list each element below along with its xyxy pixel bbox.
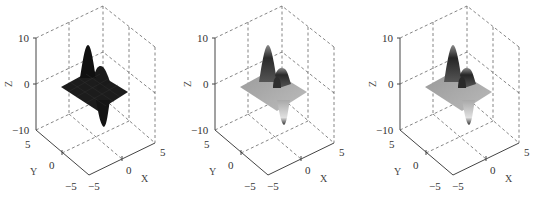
surface-plot-a: 10 0 −10 Z 5 0 −5 Y −5 0 5 X bbox=[0, 0, 180, 200]
z-axis-label: Z bbox=[183, 81, 193, 87]
x-tick-5: 5 bbox=[524, 147, 530, 158]
y-axis-label: Y bbox=[394, 167, 401, 177]
x-tick-0: 0 bbox=[305, 165, 311, 176]
surface-plot-c: 10 0 −10 Z 5 0 −5 Y −5 0 5 X bbox=[364, 0, 534, 200]
surface-plot-b: 10 0 −10 Z 5 0 −5 Y −5 0 5 X bbox=[179, 0, 359, 200]
x-tick-0: 0 bbox=[490, 165, 496, 176]
y-tick-5: 5 bbox=[204, 139, 210, 150]
x-axis-label: X bbox=[505, 174, 512, 184]
plot-b-canvas bbox=[179, 0, 359, 200]
z-tick-minus10: −10 bbox=[191, 125, 208, 136]
z-tick-10: 10 bbox=[382, 33, 393, 44]
y-tick-minus5: −5 bbox=[244, 181, 256, 192]
y-tick-0: 0 bbox=[228, 160, 234, 171]
y-tick-minus5: −5 bbox=[65, 181, 77, 192]
y-axis-label: Y bbox=[30, 167, 37, 177]
z-tick-0: 0 bbox=[203, 79, 209, 90]
x-tick-minus5: −5 bbox=[267, 181, 279, 192]
y-tick-5: 5 bbox=[389, 139, 395, 150]
x-tick-5: 5 bbox=[160, 147, 166, 158]
plot-a-canvas bbox=[0, 0, 180, 200]
surface-mesh bbox=[61, 45, 128, 127]
z-axis-label: Z bbox=[4, 81, 14, 87]
y-tick-minus5: −5 bbox=[429, 181, 441, 192]
x-tick-minus5: −5 bbox=[88, 181, 100, 192]
y-tick-0: 0 bbox=[413, 160, 419, 171]
x-tick-5: 5 bbox=[339, 147, 345, 158]
plot-c-canvas bbox=[364, 0, 534, 200]
z-tick-0: 0 bbox=[388, 79, 394, 90]
z-tick-minus10: −10 bbox=[12, 125, 29, 136]
z-tick-minus10: −10 bbox=[376, 125, 393, 136]
x-tick-minus5: −5 bbox=[452, 181, 464, 192]
x-axis-label: X bbox=[141, 174, 148, 184]
y-axis-label: Y bbox=[209, 167, 216, 177]
x-tick-0: 0 bbox=[126, 165, 132, 176]
y-tick-5: 5 bbox=[25, 139, 31, 150]
z-tick-10: 10 bbox=[18, 33, 29, 44]
z-tick-0: 0 bbox=[24, 79, 30, 90]
x-axis-label: X bbox=[320, 174, 327, 184]
z-tick-10: 10 bbox=[197, 33, 208, 44]
z-axis-label: Z bbox=[368, 81, 378, 87]
y-tick-0: 0 bbox=[49, 160, 55, 171]
